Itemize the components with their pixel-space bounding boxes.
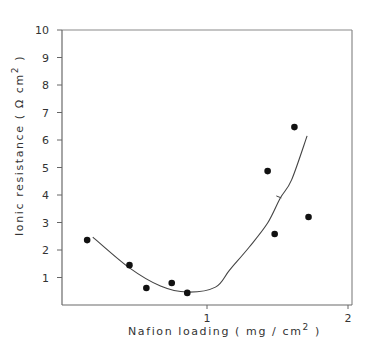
plot-frame — [62, 30, 352, 305]
data-point — [143, 285, 150, 292]
data-point — [126, 262, 133, 269]
y-axis-label: Ionic resistance ( Ω cm2 ) — [10, 55, 26, 236]
y-ticks: 12345678910 — [35, 24, 62, 285]
data-point — [305, 214, 312, 221]
y-tick-label: 9 — [42, 52, 49, 65]
y-tick-label: 2 — [42, 244, 49, 257]
y-tick-label: 5 — [42, 162, 49, 175]
x-tick-label: 1 — [204, 312, 211, 325]
x-axis-label: Nafion loading ( mg / cm2 ) — [128, 322, 321, 338]
y-tick-label: 1 — [42, 272, 49, 285]
fit-curve — [93, 136, 307, 292]
y-tick-label: 3 — [42, 217, 49, 230]
data-point — [168, 280, 175, 287]
data-point — [271, 231, 278, 238]
y-tick-label: 10 — [35, 24, 49, 37]
y-tick-label: 6 — [42, 134, 49, 147]
y-tick-label: 4 — [42, 189, 49, 202]
data-point — [291, 124, 298, 131]
data-points — [84, 124, 312, 296]
chart: 12345678910 12 Nafion loading ( mg / cm2… — [0, 0, 372, 354]
data-point — [264, 168, 271, 175]
y-tick-label: 8 — [42, 79, 49, 92]
x-tick-label: 2 — [345, 312, 352, 325]
y-tick-label: 7 — [42, 107, 49, 120]
data-point — [184, 290, 191, 297]
data-point — [84, 237, 91, 244]
x-ticks: 12 — [204, 305, 352, 325]
